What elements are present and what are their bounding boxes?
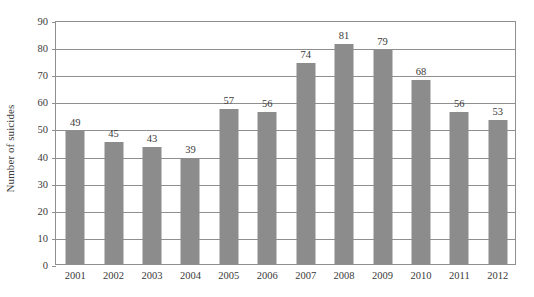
y-tick-label: 80 bbox=[18, 43, 48, 54]
bar-value-label: 81 bbox=[339, 30, 350, 41]
bar-value-label: 68 bbox=[416, 66, 427, 77]
y-tick-label: 40 bbox=[18, 152, 48, 163]
bar bbox=[296, 63, 315, 264]
bar-group: 742007 bbox=[287, 22, 325, 264]
bar bbox=[181, 158, 200, 264]
x-tick-label: 2011 bbox=[449, 270, 470, 281]
bar-group: 562006 bbox=[248, 22, 286, 264]
bar-group: 532012 bbox=[479, 22, 517, 264]
bar-group: 432003 bbox=[133, 22, 171, 264]
y-axis-title: Number of suicides bbox=[0, 0, 20, 297]
bar-chart: Number of suicides 0102030405060708090 4… bbox=[0, 0, 534, 297]
bar bbox=[488, 120, 507, 264]
x-tick-label: 2012 bbox=[487, 270, 508, 281]
y-tick-label: 30 bbox=[18, 179, 48, 190]
bar bbox=[219, 109, 238, 264]
bar-value-label: 56 bbox=[454, 98, 465, 109]
y-tick-label: 20 bbox=[18, 206, 48, 217]
bar-group: 572005 bbox=[210, 22, 248, 264]
bar-value-label: 49 bbox=[70, 117, 81, 128]
y-tick-label: 10 bbox=[18, 233, 48, 244]
x-tick-label: 2006 bbox=[257, 270, 278, 281]
x-tick-label: 2002 bbox=[103, 270, 124, 281]
bar-group: 492001 bbox=[56, 22, 94, 264]
bar-group: 392004 bbox=[171, 22, 209, 264]
bar bbox=[373, 50, 392, 264]
bar bbox=[66, 131, 85, 264]
bar-value-label: 74 bbox=[300, 49, 311, 60]
y-tick-mark bbox=[52, 266, 56, 267]
bar-group: 682010 bbox=[402, 22, 440, 264]
bar-group: 452002 bbox=[94, 22, 132, 264]
bar-group: 562011 bbox=[440, 22, 478, 264]
y-tick-label: 60 bbox=[18, 97, 48, 108]
x-tick-label: 2001 bbox=[65, 270, 86, 281]
x-tick-label: 2005 bbox=[218, 270, 239, 281]
bar bbox=[335, 44, 354, 264]
bar bbox=[258, 112, 277, 264]
bar-value-label: 57 bbox=[224, 95, 235, 106]
x-tick-label: 2010 bbox=[410, 270, 431, 281]
bar bbox=[143, 147, 162, 264]
bar-value-label: 39 bbox=[185, 144, 196, 155]
y-tick-label: 70 bbox=[18, 70, 48, 81]
x-tick-label: 2004 bbox=[180, 270, 201, 281]
bar bbox=[104, 142, 123, 264]
bar-group: 792009 bbox=[363, 22, 401, 264]
x-tick-label: 2008 bbox=[334, 270, 355, 281]
bar-value-label: 53 bbox=[493, 106, 504, 117]
bar-value-label: 43 bbox=[147, 133, 158, 144]
bar-value-label: 79 bbox=[377, 36, 388, 47]
x-tick-label: 2003 bbox=[142, 270, 163, 281]
plot-area: 0102030405060708090 49200145200243200339… bbox=[55, 21, 516, 265]
y-tick-label: 50 bbox=[18, 124, 48, 135]
bar-group: 812008 bbox=[325, 22, 363, 264]
y-tick-label: 90 bbox=[18, 16, 48, 27]
bar bbox=[411, 80, 430, 264]
y-tick-label: 0 bbox=[18, 260, 48, 271]
x-tick-label: 2009 bbox=[372, 270, 393, 281]
bar-value-label: 56 bbox=[262, 98, 273, 109]
bar bbox=[450, 112, 469, 264]
x-tick-label: 2007 bbox=[295, 270, 316, 281]
bar-value-label: 45 bbox=[108, 128, 119, 139]
